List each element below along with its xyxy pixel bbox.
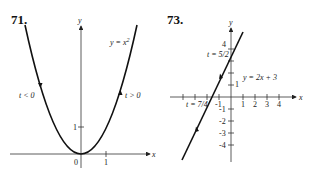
y-tick-label: 4: [222, 40, 226, 49]
curve-label: y = 2x + 3: [242, 73, 277, 82]
figure-71: 71. x y 1 1 0 y = x2 t < 0 t > 0: [10, 12, 156, 168]
y-tick-label: -4: [219, 141, 226, 150]
y-tick-label: 1: [235, 80, 239, 89]
curve-label: y = x2: [109, 37, 130, 47]
figure-number: 71.: [11, 12, 27, 27]
annotation-t-negative: t < 0: [19, 91, 35, 100]
origin-label: 0: [74, 158, 78, 167]
x-tick-label: 1: [104, 158, 108, 167]
x-tick-label: 3: [265, 100, 269, 109]
y-tick-label: 1: [73, 123, 77, 132]
y-tick-label: -2: [219, 117, 226, 126]
figures-canvas: 71. x y 1 1 0 y = x2 t < 0 t > 0 73. x y: [0, 0, 316, 172]
x-tick-label: 2: [253, 100, 257, 109]
figure-73: 73. x y -1 1 2 3 4: [167, 12, 303, 162]
figure-number: 73.: [167, 12, 183, 27]
annotation-t-5-2: t = 5/2: [207, 50, 229, 59]
y-tick-label: -3: [219, 129, 226, 138]
arrow-icon: [38, 83, 43, 88]
x-axis-label: x: [151, 150, 156, 159]
y-axis-label: y: [77, 16, 82, 25]
annotation-t-7-4: t = 7/4: [186, 100, 208, 109]
y-tick-label: -1: [219, 105, 226, 114]
annotation-t-positive: t > 0: [125, 91, 141, 100]
y-axis-label: y: [228, 18, 233, 27]
x-tick-label: 4: [277, 100, 281, 109]
x-axis-label: x: [298, 93, 303, 102]
x-tick-label: 1: [241, 100, 245, 109]
arrow-icon: [118, 90, 123, 95]
